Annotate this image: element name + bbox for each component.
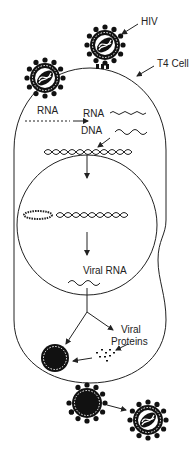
label-rna-entry: RNA — [37, 105, 58, 116]
dna-strand — [115, 130, 147, 135]
label-t4-cell: T4 Cell — [157, 58, 189, 69]
hiv-virus-entering — [24, 57, 65, 98]
label-viral-proteins-1: Viral — [121, 324, 141, 335]
hiv-virus-attaching — [84, 24, 125, 65]
label-rna: RNA — [83, 108, 104, 119]
assembling-particle — [41, 344, 69, 372]
circular-dna — [24, 211, 52, 219]
rna-strand — [110, 112, 146, 115]
label-dna: DNA — [81, 125, 102, 136]
integrated-dna — [56, 213, 128, 218]
label-viral-proteins-2: Proteins — [111, 336, 148, 347]
cd4-receptors — [96, 64, 109, 69]
budding-virus — [66, 382, 107, 423]
label-hiv: HIV — [141, 16, 158, 27]
viral-rna-strand — [68, 281, 100, 286]
double-stranded-dna — [44, 150, 132, 155]
hiv-virus-released — [127, 399, 168, 440]
viral-protein-dots — [96, 349, 115, 362]
label-viral-rna: Viral RNA — [83, 265, 127, 276]
